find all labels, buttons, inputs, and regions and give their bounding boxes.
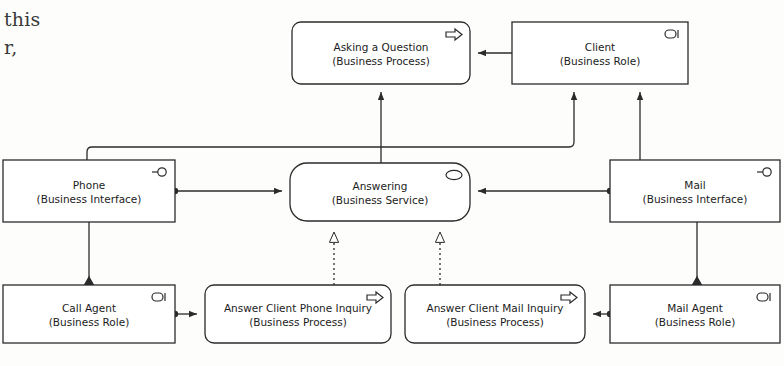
node-name-label: Answer Client Phone Inquiry xyxy=(224,302,372,314)
node-mail_agent[interactable]: Mail Agent(Business Role) xyxy=(610,285,780,343)
node-name-label: Answer Client Mail Inquiry xyxy=(427,302,564,314)
node-box[interactable] xyxy=(292,22,470,84)
node-stereotype-label: (Business Service) xyxy=(332,194,429,206)
node-stereotype-label: (Business Role) xyxy=(560,55,640,67)
node-box[interactable] xyxy=(610,160,780,222)
node-stereotype-label: (Business Process) xyxy=(249,316,347,328)
diagram-svg: Asking a Question(Business Process)Clien… xyxy=(0,0,784,366)
node-answering[interactable]: Answering(Business Service) xyxy=(290,163,470,221)
node-name-label: Asking a Question xyxy=(333,41,428,53)
diagram-canvas: this r, xyxy=(0,0,784,366)
node-name-label: Call Agent xyxy=(62,302,116,314)
node-box[interactable] xyxy=(3,160,175,222)
node-call_agent[interactable]: Call Agent(Business Role) xyxy=(3,285,175,343)
node-asking[interactable]: Asking a Question(Business Process) xyxy=(292,22,470,84)
node-phone[interactable]: Phone(Business Interface) xyxy=(3,160,175,222)
node-box[interactable] xyxy=(405,285,585,343)
node-box[interactable] xyxy=(3,285,175,343)
node-name-label: Client xyxy=(585,41,615,53)
node-client[interactable]: Client(Business Role) xyxy=(512,22,688,84)
node-stereotype-label: (Business Role) xyxy=(49,316,129,328)
business-service-oval-icon xyxy=(446,170,462,179)
node-mail_inquiry[interactable]: Answer Client Mail Inquiry(Business Proc… xyxy=(405,285,585,343)
node-mail[interactable]: Mail(Business Interface) xyxy=(610,160,780,222)
node-box[interactable] xyxy=(290,163,470,221)
node-name-label: Answering xyxy=(353,180,408,192)
node-stereotype-label: (Business Role) xyxy=(655,316,735,328)
node-box[interactable] xyxy=(205,285,391,343)
node-name-label: Mail Agent xyxy=(667,302,723,314)
edge-phone-to-client xyxy=(87,92,574,160)
node-stereotype-label: (Business Interface) xyxy=(643,193,748,205)
node-box[interactable] xyxy=(512,22,688,84)
node-name-label: Mail xyxy=(684,179,705,191)
node-stereotype-label: (Business Process) xyxy=(332,55,430,67)
node-box[interactable] xyxy=(610,285,780,343)
node-name-label: Phone xyxy=(73,179,106,191)
node-stereotype-label: (Business Process) xyxy=(446,316,544,328)
node-phone_inquiry[interactable]: Answer Client Phone Inquiry(Business Pro… xyxy=(205,285,391,343)
node-stereotype-label: (Business Interface) xyxy=(37,193,142,205)
